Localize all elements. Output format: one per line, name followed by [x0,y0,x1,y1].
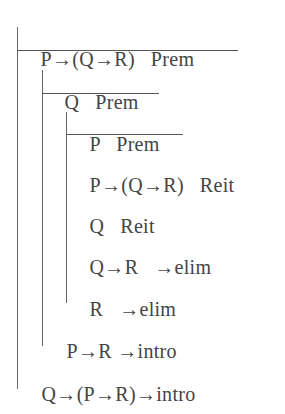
justification: Reit [200,174,235,196]
justification: Prem [151,48,194,70]
justification: →elim [119,298,176,320]
formula: Q→R [90,256,139,278]
justification: Prem [116,133,159,155]
proof-line-5: Q Reit [79,196,155,236]
proof-line-8: P→R →intro [56,321,177,361]
proof-line-9: Q→(P→R)→intro [31,364,196,404]
formula: R [90,298,104,320]
formula: P→(Q→R) [90,174,184,196]
proof-line-7: R →elim [79,279,176,319]
subproof-p-scope-bar [66,112,67,303]
justification: →intro [117,340,177,362]
formula: P [90,133,101,155]
justification: Reit [120,215,155,237]
subproof-q-scope-bar [42,70,43,346]
proof-line-3: P Prem [79,114,160,154]
justification: →elim [154,256,211,278]
justification: Prem [95,91,138,113]
proof-line-2: Q Prem [54,72,139,112]
justification: →intro [136,383,196,405]
outer-scope-bar [17,27,18,389]
proof-line-6: Q→R →elim [79,237,211,277]
formula: P→(Q→R) [41,48,135,70]
formula: Q [65,91,80,113]
proof-line-1: P→(Q→R) Prem [30,29,194,69]
proof-line-4: P→(Q→R) Reit [79,155,234,195]
formula: Q→(P→R) [42,383,136,405]
formula: Q [90,215,105,237]
formula: P→R [67,340,112,362]
